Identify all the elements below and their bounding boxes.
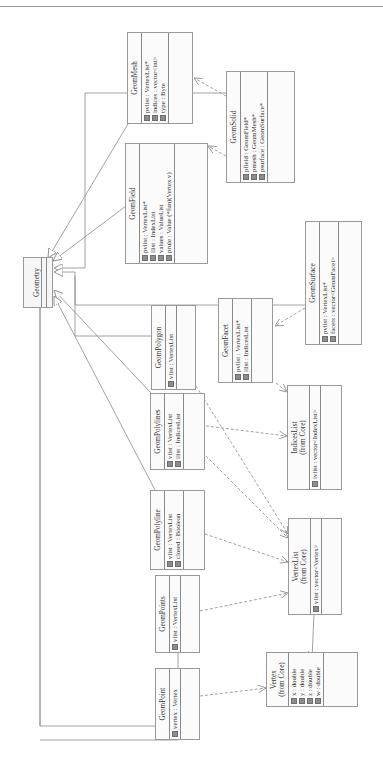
attribute: vlist : vector<Vertex> [312, 521, 320, 612]
class-name: Vertex (from Core) [267, 653, 288, 706]
attribute-compartment: pvlist : VertexList* ilist : IndicesList [232, 299, 251, 382]
private-attribute-icon [160, 115, 166, 121]
class-vertexlist[interactable]: VertexList (from Core) vlist : vector<Ve… [288, 518, 342, 615]
operation-compartment [168, 33, 175, 123]
attribute-compartment: vlist : vector<Vertex> [310, 519, 321, 614]
attribute: pvlist : VertexList* [234, 301, 242, 380]
private-attribute-icon [150, 255, 156, 261]
attribute-compartment: vlist : VertexList [169, 576, 180, 652]
dependency-geompolyline-vertexlist [205, 534, 288, 562]
private-attribute-icon [322, 336, 328, 342]
private-attribute-icon [175, 561, 181, 567]
private-attribute-icon [251, 174, 257, 180]
attribute-compartment: x : double y : double z : double w : dou… [288, 653, 323, 706]
dependency-geomsolid-geomfield [208, 146, 226, 156]
class-geometry[interactable]: Geometry [23, 257, 53, 308]
class-name: GeomPolygon [152, 306, 165, 389]
class-geompoint[interactable]: GeomPoint vertex : Vertex [155, 668, 200, 740]
attribute-compartment: vlist : VertexList ilist : IndicesList [164, 394, 183, 469]
private-attribute-icon [315, 698, 321, 704]
class-geommesh[interactable]: GeomMesh pvlist : VertexList* indices : … [127, 32, 193, 124]
operation-compartment [174, 144, 181, 263]
generalization-geomfield [53, 206, 126, 261]
attribute: pmesh : GeomMesh* [250, 74, 258, 180]
attribute: vertex : Vertex [171, 671, 179, 737]
class-name: GeomField [126, 144, 139, 263]
attribute: values : ValueList [157, 146, 165, 261]
private-attribute-icon [291, 698, 297, 704]
class-geompoints[interactable]: GeomPoints vlist : VertexList [155, 575, 200, 653]
attribute: vlist : VertexList [166, 493, 174, 567]
operation-compartment [176, 306, 183, 389]
dependency-geompoint-vertex [200, 688, 266, 696]
class-geomfacet[interactable]: GeomFacet pvlist : VertexList* ilist : I… [218, 298, 273, 383]
class-name: GeomFacet [219, 299, 232, 382]
attribute: vlist : VertexList [166, 396, 174, 467]
private-attribute-icon [313, 606, 319, 612]
private-attribute-icon [330, 336, 336, 342]
attribute-compartment: pvlist : VertexList* indices : vector<in… [141, 33, 168, 123]
attribute: indices : vector<int> [151, 35, 159, 121]
attribute: pvlist : VertexList* [141, 146, 149, 261]
attribute: w : double [314, 655, 322, 704]
private-attribute-icon [172, 731, 178, 737]
attribute: vlist : VertexList [167, 308, 175, 387]
package-label: (from Core) [300, 521, 308, 612]
private-attribute-icon [167, 461, 173, 467]
attribute-compartment: pvlist : VertexList* facets : vector<Geo… [319, 222, 338, 344]
private-attribute-icon [152, 115, 158, 121]
class-vertex[interactable]: Vertex (from Core) x : double y : double… [266, 652, 358, 707]
generalization-geompolylines [54, 290, 151, 393]
attribute-compartment: vlist : VertexList closed : Boolean [164, 491, 183, 569]
attribute: psurface : GeomSurface* [258, 74, 266, 180]
attribute: prule : Value (*fun)(Vertex v) [165, 146, 173, 261]
class-name: GeomMesh [128, 33, 141, 123]
class-name: GeomPoints [156, 576, 169, 652]
attribute: type : Byte [159, 35, 167, 121]
private-attribute-icon [168, 381, 174, 387]
private-attribute-icon [158, 255, 164, 261]
private-attribute-icon [175, 461, 181, 467]
class-name: GeomPolylines [151, 394, 164, 469]
class-geompolylines[interactable]: GeomPolylines vlist : VertexList ilist :… [150, 393, 205, 470]
class-geomfield[interactable]: GeomField pvlist : VertexList* ilist : I… [125, 143, 208, 264]
private-attribute-icon [167, 561, 173, 567]
operation-compartment [321, 519, 328, 614]
class-geomsurface[interactable]: GeomSurface pvlist : VertexList* facets … [305, 221, 362, 345]
attribute: pvlist : VertexList* [321, 224, 329, 342]
operation-compartment [183, 394, 190, 469]
generalization-geommesh [48, 124, 128, 258]
private-attribute-icon [299, 698, 305, 704]
operation-compartment [180, 576, 187, 652]
attribute: z : double [306, 655, 314, 704]
private-attribute-icon [312, 481, 318, 487]
private-attribute-icon [259, 174, 265, 180]
attribute-compartment: vlist : VertexList [165, 306, 176, 389]
private-attribute-icon [307, 698, 313, 704]
attribute: y : double [298, 655, 306, 704]
operation-compartment [338, 222, 345, 344]
attribute: ivlist : vector<IndexList> [311, 388, 319, 487]
attribute-compartment: pfield : GeomField* pmesh : GeomMesh* ps… [240, 72, 267, 182]
attribute-compartment: ivlist : vector<IndexList> [309, 386, 320, 489]
class-geompolygon[interactable]: GeomPolygon vlist : VertexList [151, 305, 196, 390]
private-attribute-icon [172, 644, 178, 650]
class-indiceslist[interactable]: IndicesList (from Core) ivlist : vector<… [287, 385, 342, 490]
class-geomsolid[interactable]: GeomSolid pfield : GeomField* pmesh : Ge… [226, 71, 295, 183]
class-geompolyline[interactable]: GeomPolyline vlist : VertexList closed :… [150, 490, 205, 570]
attribute: x : double [290, 655, 298, 704]
operation-compartment [180, 669, 187, 739]
operation-compartment [183, 491, 190, 569]
attribute: pfield : GeomField* [242, 74, 250, 180]
generalization-geompolyline [54, 296, 155, 490]
dependency-geomfacet-indiceslist [276, 383, 287, 392]
generalization-geompolygon [75, 276, 151, 336]
operation-compartment [320, 386, 327, 489]
class-compartments [41, 258, 52, 307]
class-name: GeomPolyline [151, 491, 164, 569]
operation-compartment [323, 653, 330, 706]
class-name: GeomSurface [306, 222, 319, 344]
private-attribute-icon [166, 255, 172, 261]
attribute: closed : Boolean [174, 493, 182, 567]
private-attribute-icon [235, 374, 241, 380]
